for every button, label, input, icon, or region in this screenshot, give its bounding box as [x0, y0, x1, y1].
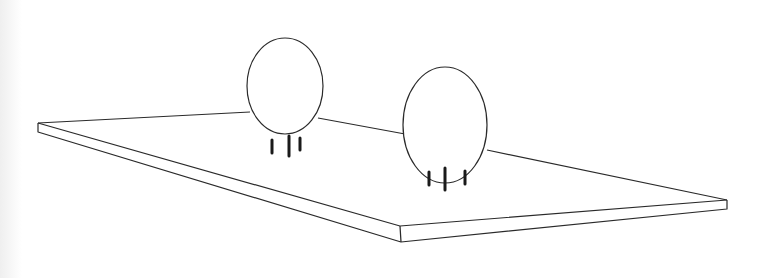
slab-drawing	[0, 0, 768, 278]
slab-left-thickness	[38, 123, 727, 242]
slab	[38, 112, 727, 242]
sphere-right-body	[403, 67, 487, 183]
sphere-left	[247, 38, 323, 156]
slab-back-edge-right	[318, 118, 405, 134]
sphere-right	[403, 67, 487, 190]
slab-front-corner-edge	[400, 226, 401, 242]
slab-front-edge-left	[38, 123, 727, 226]
drawing-canvas	[0, 0, 768, 278]
slab-back-edge-far-right	[487, 150, 727, 200]
sphere-left-body	[247, 38, 323, 134]
slab-back-edge-left	[38, 112, 250, 123]
